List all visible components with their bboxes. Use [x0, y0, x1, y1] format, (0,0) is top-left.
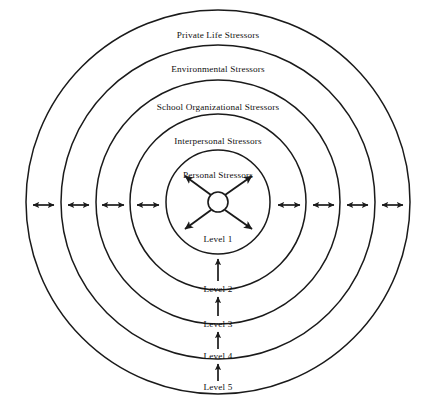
level-label-2: Level 2: [204, 284, 233, 294]
ring-label-personal: Personal Stressors: [183, 170, 253, 180]
ring-label-private-life: Private Life Stressors: [177, 30, 260, 40]
ring-label-environmental: Environmental Stressors: [171, 64, 265, 74]
level-label-3: Level 3: [204, 319, 233, 329]
stressor-levels-diagram: Private Life Stressors Environmental Str…: [0, 0, 431, 412]
level-label-4: Level 4: [204, 351, 233, 361]
level-label-1: Level 1: [204, 234, 233, 244]
core-radiating-arrows: [185, 176, 252, 229]
ring-label-interpersonal: Interpersonal Stressors: [174, 136, 262, 146]
ring-labels: Private Life Stressors Environmental Str…: [157, 30, 280, 180]
level-label-5: Level 5: [204, 382, 233, 392]
core-arrow-down-right: [225, 210, 252, 229]
core-arrow-down-left: [185, 210, 211, 229]
diagram-canvas: Private Life Stressors Environmental Str…: [0, 0, 431, 412]
core-circle: [208, 192, 228, 212]
ring-label-school-organizational: School Organizational Stressors: [157, 102, 280, 112]
